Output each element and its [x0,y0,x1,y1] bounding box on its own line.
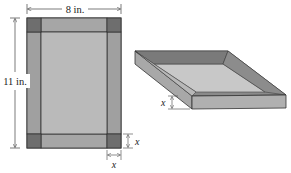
corner-square-br [107,134,121,148]
width-label: 8 in. [66,4,85,15]
corner-x-label-horizontal: x [111,159,117,170]
box-height-label: x [160,97,166,108]
corner-x-horizontal: x [107,150,121,170]
height-label: 11 in. [3,76,27,87]
corner-square-bl [27,134,41,148]
flap-top [41,18,107,32]
corner-x-vertical: x [123,134,140,148]
sheet-base [41,32,107,134]
flat-sheet [27,18,121,148]
corner-x-label-vertical: x [134,136,140,147]
height-dimension: 11 in. [0,18,30,148]
corner-square-tr [107,18,121,32]
flap-bottom [41,134,107,148]
open-box [135,51,286,109]
flap-right [107,32,121,134]
corner-square-tl [27,18,41,32]
width-dimension: 8 in. [27,4,121,15]
diagram-canvas: 8 in. 11 in. x x [0,0,291,173]
box-front-side [192,95,286,109]
